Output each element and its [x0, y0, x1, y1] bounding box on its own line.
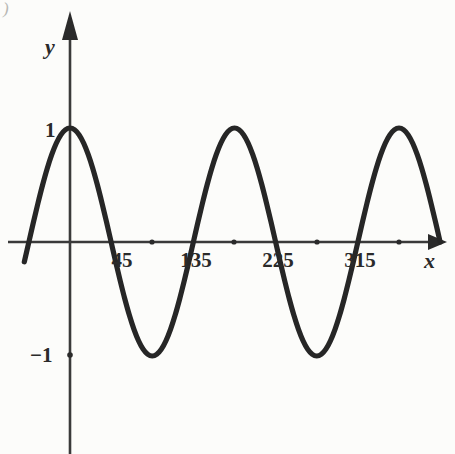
- y-tick-label-minus-1: −1: [30, 345, 52, 366]
- x-axis-label: x: [424, 250, 435, 272]
- y-tick-minus-1: [67, 352, 73, 358]
- x-tick-label-135: 135: [180, 250, 212, 271]
- x-tick-label-315: 315: [344, 250, 376, 271]
- x-tick-label-225: 225: [262, 250, 294, 271]
- y-axis-label: y: [45, 36, 55, 58]
- x-tick-270: [314, 239, 319, 244]
- y-tick-label-1: 1: [45, 120, 56, 141]
- x-tick-label-45: 45: [112, 250, 133, 271]
- y-axis-arrow-icon: [62, 11, 78, 40]
- x-tick-90: [149, 239, 154, 244]
- figure-container: ) y x 1 −1 45 135 225 315: [0, 0, 455, 454]
- plot-canvas: [0, 0, 455, 454]
- corner-enumeration-mark: ): [3, 0, 9, 17]
- x-tick-180: [231, 239, 236, 244]
- axes-group: [8, 11, 447, 454]
- x-tick-360: [396, 239, 401, 244]
